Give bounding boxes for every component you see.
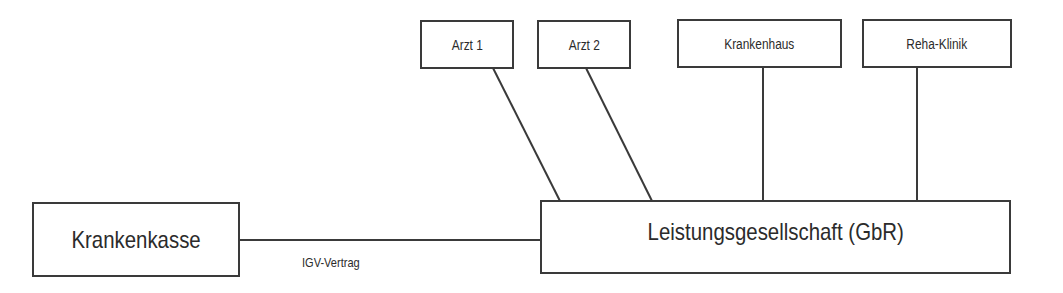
- node-label: Leistungsgesellschaft (GbR): [647, 218, 903, 246]
- edge-arzt1-gbr: [493, 68, 560, 201]
- edge-arzt2-gbr: [586, 68, 652, 201]
- node-label: Arzt 1: [451, 37, 482, 53]
- node-reha-klinik: Reha-Klinik: [862, 19, 1012, 68]
- node-arzt-1: Arzt 1: [420, 20, 514, 69]
- node-label: Arzt 2: [568, 37, 599, 53]
- node-arzt-2: Arzt 2: [537, 20, 631, 69]
- node-krankenkasse: Krankenkasse: [32, 202, 240, 277]
- edge-label-igv-vertrag: IGV-Vertrag: [302, 255, 360, 270]
- node-label: Krankenkasse: [71, 226, 200, 254]
- node-krankenhaus: Krankenhaus: [677, 19, 842, 68]
- node-label: Reha-Klinik: [907, 36, 968, 52]
- node-leistungsgesellschaft: Leistungsgesellschaft (GbR): [540, 200, 1011, 274]
- node-label: Krankenhaus: [724, 36, 794, 52]
